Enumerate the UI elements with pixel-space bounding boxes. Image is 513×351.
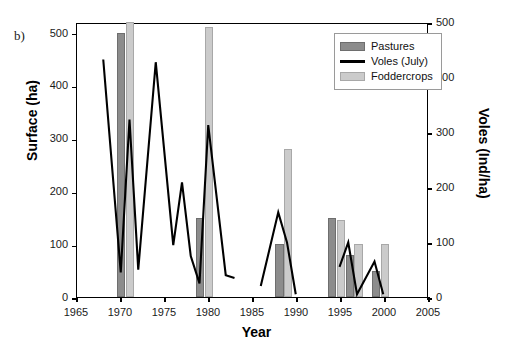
x-tick-label: 1975 [144, 306, 184, 318]
y-tick-label-left: 500 [34, 27, 68, 39]
y-tick-label-left: 0 [34, 291, 68, 303]
x-tick-label: 1965 [56, 306, 96, 318]
voles-line-segment [340, 242, 384, 294]
x-tick [76, 297, 77, 302]
x-tick [120, 297, 121, 302]
y-tick-right [427, 188, 432, 189]
y-tick-label-left: 300 [34, 132, 68, 144]
voles-line-segment [103, 59, 234, 283]
y-tick-label-left: 200 [34, 185, 68, 197]
legend-item-label: Foddercrops [371, 71, 433, 82]
x-tick-label: 2000 [364, 306, 404, 318]
legend-item-label: Voles (July) [371, 56, 428, 67]
figure-panel-b: b) Surface (ha) Voles (Ind/ha) Year 0100… [0, 0, 513, 351]
y-tick-label-right: 300 [436, 126, 470, 138]
y-tick-right [427, 23, 432, 24]
x-tick-label: 1995 [320, 306, 360, 318]
x-tick [208, 297, 209, 302]
y-tick-right [427, 133, 432, 134]
y-tick-label-right: 0 [436, 291, 470, 303]
x-tick-label: 2005 [408, 306, 448, 318]
legend-item: Voles (July) [340, 54, 435, 69]
y-tick-label-right: 500 [436, 16, 470, 28]
x-tick [428, 297, 429, 302]
y-tick-label-right: 100 [436, 236, 470, 248]
y-tick-right [427, 243, 432, 244]
bar-dark-gray-swatch [340, 42, 365, 51]
x-tick [296, 297, 297, 302]
x-tick-label: 1970 [100, 306, 140, 318]
x-tick [252, 297, 253, 302]
chart-legend: PasturesVoles (July)Foddercrops [334, 33, 442, 90]
x-tick [340, 297, 341, 302]
legend-item: Pastures [340, 39, 435, 54]
y-tick-label-left: 400 [34, 79, 68, 91]
legend-item: Foddercrops [340, 69, 435, 84]
x-tick-label: 1990 [276, 306, 316, 318]
x-tick [164, 297, 165, 302]
x-axis-title: Year [0, 324, 513, 340]
y-axis-right-title: Voles (Ind/ha) [470, 108, 492, 199]
black-line-swatch [340, 60, 365, 63]
y-tick-label-left: 100 [34, 238, 68, 250]
voles-line-segment [261, 212, 296, 294]
y-tick-label-right: 200 [436, 181, 470, 193]
x-tick [384, 297, 385, 302]
x-tick-label: 1980 [188, 306, 228, 318]
y-axis-left-title: Surface (ha) [24, 80, 46, 161]
x-tick-label: 1985 [232, 306, 272, 318]
bar-light-gray-swatch [340, 72, 365, 81]
panel-label: b) [14, 28, 25, 44]
legend-item-label: Pastures [371, 41, 414, 52]
